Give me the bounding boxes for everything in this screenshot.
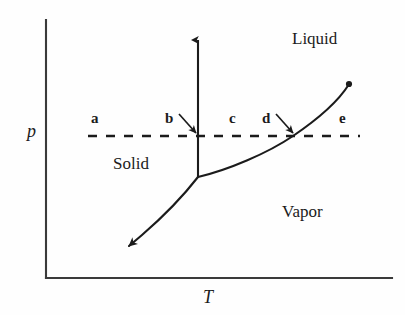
temperature-axis-label: T xyxy=(203,288,213,306)
point-label-b: b xyxy=(165,111,173,126)
vaporization-curve xyxy=(198,85,349,177)
arrow-d-icon xyxy=(276,114,293,133)
sublimation-curve xyxy=(129,177,198,246)
point-label-c: c xyxy=(229,111,236,126)
phase-diagram-figure: Liquid Solid Vapor p T a b c d e xyxy=(0,0,405,315)
point-label-e: e xyxy=(339,111,346,126)
region-label-vapor: Vapor xyxy=(282,203,323,220)
phase-diagram-canvas xyxy=(0,0,405,315)
point-label-d: d xyxy=(262,111,270,126)
region-label-liquid: Liquid xyxy=(292,30,337,47)
pressure-axis-label: p xyxy=(27,122,36,140)
point-label-a: a xyxy=(91,111,99,126)
region-label-solid: Solid xyxy=(113,155,149,172)
critical-point-marker xyxy=(346,81,352,87)
arrow-b-icon xyxy=(179,114,196,133)
